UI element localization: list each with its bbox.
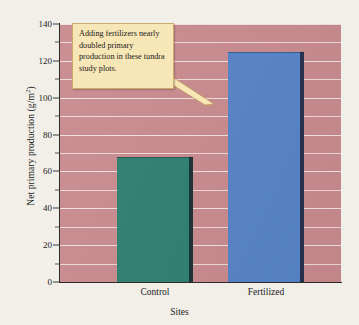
- y-axis-tick-labels: 020406080100120140: [24, 0, 52, 325]
- bar-face: [117, 157, 193, 282]
- x-axis-line: [59, 282, 342, 283]
- y-tick-label: 0: [26, 277, 52, 287]
- bar-right-shading: [300, 52, 304, 282]
- y-tick-label: 20: [26, 240, 52, 250]
- x-tick-label-control: Control: [140, 287, 169, 297]
- y-tick-label: 60: [26, 166, 52, 176]
- y-tick-label: 40: [26, 203, 52, 213]
- annotation-callout: Adding fertilizers nearly doubled primar…: [72, 23, 174, 89]
- x-axis-label: Sites: [0, 307, 359, 317]
- bar-right-shading: [189, 157, 193, 282]
- figure-container: Net primary production (g/m2) 0204060801…: [0, 0, 359, 325]
- bar-control: [117, 157, 193, 282]
- y-tick-label: 140: [26, 19, 52, 29]
- bar-face: [228, 52, 304, 282]
- y-tick-label: 120: [26, 56, 52, 66]
- y-tick-label: 80: [26, 130, 52, 140]
- bar-fertilized: [228, 52, 304, 282]
- annotation-callout-text: Adding fertilizers nearly doubled primar…: [79, 28, 168, 74]
- y-tick-label: 100: [26, 93, 52, 103]
- bar-top-shading: [228, 52, 304, 53]
- y-axis-line: [59, 23, 60, 283]
- bar-top-shading: [117, 157, 193, 158]
- x-tick-label-fertilized: Fertilized: [248, 287, 284, 297]
